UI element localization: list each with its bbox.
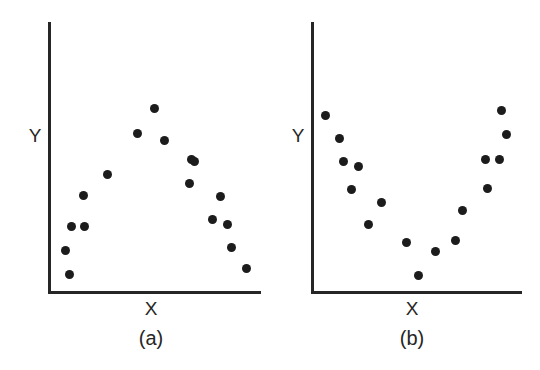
x-axis-label-b: X	[406, 299, 419, 318]
data-point	[242, 264, 251, 273]
panel-a: Y X (a)	[0, 0, 270, 370]
data-point	[216, 192, 225, 201]
data-point	[402, 238, 411, 247]
data-point	[481, 155, 490, 164]
data-point	[458, 206, 467, 215]
data-point	[208, 215, 217, 224]
y-axis-line-a	[48, 22, 51, 294]
y-axis-label-b: Y	[292, 126, 305, 145]
data-point	[431, 247, 440, 256]
data-point	[150, 104, 159, 113]
data-point	[185, 179, 194, 188]
data-point	[103, 170, 112, 179]
data-point	[160, 136, 169, 145]
data-point	[80, 222, 89, 231]
data-point	[497, 106, 506, 115]
data-point	[223, 220, 232, 229]
panel-caption-a: (a)	[139, 328, 163, 348]
data-point	[414, 271, 423, 280]
y-axis-line-b	[311, 22, 314, 294]
panel-b: Y X (b)	[270, 0, 540, 370]
data-point	[321, 111, 330, 120]
data-point	[483, 184, 492, 193]
data-point	[67, 222, 76, 231]
data-point	[61, 246, 70, 255]
data-point	[354, 162, 363, 171]
y-axis-label-a: Y	[29, 126, 42, 145]
x-axis-label-a: X	[145, 299, 158, 318]
data-point	[65, 270, 74, 279]
plot-area-a: Y X (a)	[0, 0, 270, 370]
panel-caption-b: (b)	[400, 328, 424, 348]
data-point	[335, 134, 344, 143]
data-point	[495, 155, 504, 164]
data-point	[502, 130, 511, 139]
data-point	[377, 198, 386, 207]
figure-two-scatterplots: Y X (a) Y X (b)	[0, 0, 540, 370]
data-point	[190, 157, 199, 166]
data-point	[79, 191, 88, 200]
data-point	[227, 243, 236, 252]
data-point	[451, 236, 460, 245]
data-point	[347, 185, 356, 194]
x-axis-line-b	[311, 291, 522, 294]
x-axis-line-a	[48, 291, 261, 294]
data-point	[133, 129, 142, 138]
plot-area-b: Y X (b)	[270, 0, 540, 370]
data-point	[339, 157, 348, 166]
data-point	[364, 220, 373, 229]
